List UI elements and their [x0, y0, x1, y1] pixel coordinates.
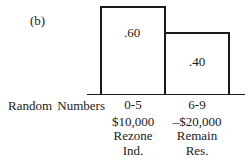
category-labels-bar-2: 6-9 –$20,000 Remain Res. [165, 98, 229, 158]
outcome-label: Rezone [101, 129, 165, 144]
random-number-range: 0-5 [101, 98, 165, 113]
probability-histogram-figure: (b) .60 .40 Random Numbers 0-5 $10,000 R… [0, 0, 251, 164]
category-labels-bar-1: 0-5 $10,000 Rezone Ind. [101, 98, 165, 158]
random-number-range: 6-9 [165, 98, 229, 113]
x-axis-baseline [87, 94, 245, 95]
bar-value-label: .40 [177, 54, 217, 69]
bar-rezone-industrial [100, 6, 166, 95]
bar-value-label: .60 [112, 25, 152, 40]
outcome-label: Remain [165, 129, 229, 144]
panel-label: (b) [30, 13, 45, 28]
payoff-value: –$20,000 [165, 115, 229, 130]
outcome-label: Res. [165, 144, 229, 159]
outcome-label: Ind. [101, 144, 165, 159]
x-axis-label: Random Numbers [8, 98, 105, 113]
payoff-value: $10,000 [101, 115, 165, 130]
